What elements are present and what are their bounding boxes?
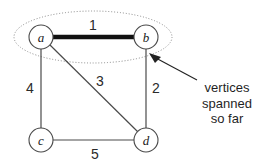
edge-a-d bbox=[50, 45, 138, 132]
annotation-line-1: vertices bbox=[192, 80, 262, 96]
edge-weight-a-b: 1 bbox=[89, 17, 97, 33]
vertex-d-label: d bbox=[143, 133, 150, 148]
vertex-b-label: b bbox=[143, 30, 150, 45]
edge-weight-a-c: 4 bbox=[26, 80, 34, 96]
annotation-line-2: spanned bbox=[192, 96, 262, 112]
edge-weight-b-d: 2 bbox=[152, 80, 160, 96]
annotation-leader-line bbox=[154, 57, 197, 80]
annotation-arrow-icon bbox=[149, 53, 161, 63]
diagram-canvas: a b c d 1 4 2 3 5 vertices spanned so fa… bbox=[0, 0, 264, 165]
vertex-a-label: a bbox=[38, 30, 45, 45]
annotation-line-3: so far bbox=[192, 111, 262, 127]
vertex-c-label: c bbox=[38, 133, 44, 148]
annotation-text: vertices spanned so far bbox=[192, 80, 262, 127]
edge-weight-c-d: 5 bbox=[91, 146, 99, 162]
edge-weight-a-d: 3 bbox=[96, 73, 104, 89]
